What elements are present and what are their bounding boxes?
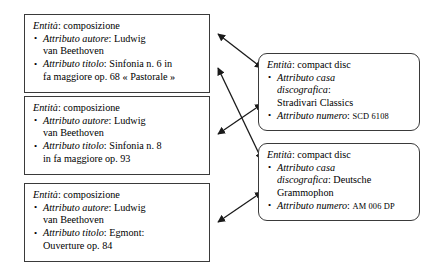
entity-type-line: Entità: composizione	[33, 102, 202, 114]
attribute-label: Attributo numero	[277, 200, 347, 211]
entity-keyword: Entità	[267, 149, 292, 160]
attribute-titolo: Attributo titolo: Egmont: Ouverture op. …	[33, 227, 202, 252]
entity-keyword: Entità	[33, 189, 58, 200]
entity-type-value: : composizione	[58, 20, 120, 31]
attribute-label-part1: Attributo casa	[277, 162, 335, 173]
entity-type-line: Entità: compact disc	[267, 59, 412, 71]
entity-type-value: : compact disc	[292, 149, 351, 160]
attribute-label: Attributo titolo	[43, 140, 104, 151]
attribute-list: Attributo autore: Ludwig van Beethoven A…	[33, 33, 202, 83]
attribute-label-part2: discografica	[277, 84, 328, 95]
entity-type-line: Entità: composizione	[33, 189, 202, 201]
entity-box-composizione-2[interactable]: Entità: composizione Attributo autore: L…	[24, 96, 210, 175]
attribute-value-part1: : Sinfonia n. 6 in	[104, 58, 172, 69]
attribute-value-part1: : Ludwig	[109, 33, 146, 44]
attribute-value-part2: van Beethoven	[43, 214, 104, 225]
attribute-value-part1: : Sinfonia n. 8	[104, 140, 162, 151]
attribute-value-part2: Grammophon	[277, 187, 334, 198]
entity-type-value: : compact disc	[292, 59, 351, 70]
entity-box-composizione-1[interactable]: Entità: composizione Attributo autore: L…	[24, 14, 210, 93]
attribute-titolo: Attributo titolo: Sinfonia n. 6 in fa ma…	[33, 58, 202, 83]
entity-keyword: Entità	[267, 59, 292, 70]
attribute-value: SCD 6108	[352, 112, 388, 121]
arrow-composizione2-compactdisc1	[218, 104, 262, 134]
attribute-value-part2: in fa maggiore op. 93	[43, 153, 130, 164]
attribute-value-part2: Stradivari Classics	[277, 97, 353, 108]
attribute-value-part1: : Ludwig	[109, 202, 146, 213]
attribute-numero: Attributo numero: SCD 6108	[267, 110, 412, 123]
attribute-label: Attributo autore	[43, 202, 109, 213]
entity-type-line: Entità: composizione	[33, 20, 202, 32]
attribute-value-part2: fa maggiore op. 68 « Pastorale »	[43, 71, 175, 82]
attribute-value-part1: : Ludwig	[109, 115, 146, 126]
entity-box-composizione-3[interactable]: Entità: composizione Attributo autore: L…	[24, 183, 210, 262]
attribute-numero: Attributo numero: AM 006 DP	[267, 200, 412, 213]
entity-box-compact-disc-1[interactable]: Entità: compact disc Attributo casa disc…	[258, 53, 420, 131]
entity-type-line: Entità: compact disc	[267, 149, 412, 161]
attribute-value: AM 006 DP	[352, 202, 394, 211]
attribute-value-part1: : Egmont:	[104, 227, 144, 238]
attribute-label-part1: Attributo casa	[277, 72, 335, 83]
attribute-label: Attributo titolo	[43, 227, 104, 238]
attribute-value-part2: van Beethoven	[43, 45, 104, 56]
arrow-composizione1-compactdisc2	[218, 68, 262, 160]
attribute-list: Attributo autore: Ludwig van Beethoven A…	[33, 202, 202, 252]
attribute-label: Attributo titolo	[43, 58, 104, 69]
attribute-casa-discografica: Attributo casa discografica: Stradivari …	[267, 72, 412, 109]
arrow-composizione1-compactdisc1	[218, 34, 262, 68]
attribute-list: Attributo casa discografica: Stradivari …	[267, 72, 412, 123]
attribute-autore: Attributo autore: Ludwig van Beethoven	[33, 33, 202, 58]
attribute-titolo: Attributo titolo: Sinfonia n. 8 in fa ma…	[33, 140, 202, 165]
attribute-label-part2: discografica	[277, 174, 328, 185]
entity-type-value: : composizione	[58, 102, 120, 113]
entity-type-value: : composizione	[58, 189, 120, 200]
attribute-value-part1: :	[328, 84, 331, 95]
arrow-composizione3-compactdisc2	[218, 192, 262, 222]
entity-box-compact-disc-2[interactable]: Entità: compact disc Attributo casa disc…	[258, 143, 420, 221]
entity-keyword: Entità	[33, 20, 58, 31]
attribute-list: Attributo autore: Ludwig van Beethoven A…	[33, 115, 202, 165]
entity-keyword: Entità	[33, 102, 58, 113]
diagram-canvas: Entità: composizione Attributo autore: L…	[0, 0, 440, 278]
attribute-list: Attributo casa discografica: Deutsche Gr…	[267, 162, 412, 213]
attribute-label: Attributo autore	[43, 33, 109, 44]
attribute-value-part2: Ouverture op. 84	[43, 240, 112, 251]
attribute-value-part1: : Deutsche	[328, 174, 371, 185]
attribute-label: Attributo numero	[277, 110, 347, 121]
attribute-autore: Attributo autore: Ludwig van Beethoven	[33, 115, 202, 140]
attribute-value-part2: van Beethoven	[43, 127, 104, 138]
attribute-autore: Attributo autore: Ludwig van Beethoven	[33, 202, 202, 227]
attribute-casa-discografica: Attributo casa discografica: Deutsche Gr…	[267, 162, 412, 199]
attribute-label: Attributo autore	[43, 115, 109, 126]
